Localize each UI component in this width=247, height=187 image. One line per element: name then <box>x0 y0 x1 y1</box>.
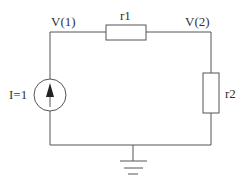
label-v1: V(1) <box>51 14 76 29</box>
label-v2: V(2) <box>185 14 210 29</box>
label-r2: r2 <box>225 86 236 101</box>
label-current-source: I=1 <box>9 87 27 102</box>
wires <box>50 32 211 145</box>
current-source <box>34 79 66 111</box>
label-r1: r1 <box>120 8 131 23</box>
resistor-r1 <box>106 25 146 40</box>
circuit-diagram: V(1) r1 V(2) r2 I=1 <box>0 0 247 187</box>
ground-icon <box>120 145 147 174</box>
resistor-r2 <box>203 73 219 113</box>
